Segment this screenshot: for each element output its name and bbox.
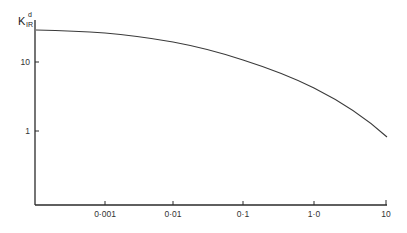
- x-tick-label: 0·001: [94, 209, 116, 219]
- x-tick-label: 10: [381, 209, 391, 219]
- y-tick-label: 10: [21, 57, 31, 67]
- svg-text:IR: IR: [26, 21, 33, 28]
- y-axis-label: K IR d: [18, 11, 33, 28]
- x-ticks: 0·001 0·01 0·1 1·0 10: [94, 200, 391, 219]
- y-ticks: 10 1: [21, 57, 39, 136]
- svg-text:K: K: [18, 15, 26, 27]
- x-tick-label: 1·0: [308, 209, 321, 219]
- data-curve: [36, 30, 387, 137]
- y-tick-label: 1: [25, 126, 30, 136]
- x-tick-label: 0·01: [164, 209, 181, 219]
- svg-text:d: d: [28, 11, 32, 18]
- chart: 10 1 0·001 0·01 0·1 1·0 10 K IR d: [0, 0, 407, 233]
- x-tick-label: 0·1: [237, 209, 250, 219]
